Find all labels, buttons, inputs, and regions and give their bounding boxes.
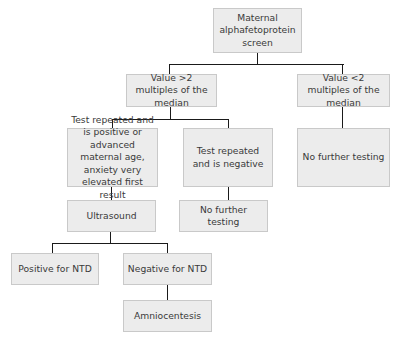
connector-to-repeat-negative (228, 119, 229, 128)
node-positive-for-ntd: Positive for NTD (11, 253, 99, 285)
node-maternal-afp-screen: Maternal alphafetoprotein screen (213, 8, 302, 53)
connector-negative-ntd-to-amnio (167, 285, 168, 300)
node-negative-no-further-testing: No further testing (179, 200, 268, 232)
node-amniocentesis: Amniocentesis (123, 300, 212, 332)
node-low-no-further-testing: No further testing (297, 128, 390, 187)
connector-root-branch (169, 64, 344, 65)
node-ultrasound: Ultrasound (67, 200, 156, 232)
connector-repeat-negative-to-no-further (228, 187, 229, 200)
node-test-repeated-negative: Test repeated and is negative (183, 128, 273, 187)
connector-to-negative-ntd (167, 243, 168, 253)
node-test-repeated-positive: Test repeated and is positive or advance… (67, 128, 158, 187)
node-value-below-2-mom: Value <2 multiples of the median (297, 74, 390, 107)
connector-ultrasound-branch (52, 243, 168, 244)
node-negative-for-ntd: Negative for NTD (123, 253, 212, 285)
connector-to-positive-ntd (52, 243, 53, 253)
connector-low-to-no-further (342, 107, 343, 128)
node-value-above-2-mom: Value >2 multiples of the median (126, 74, 217, 107)
